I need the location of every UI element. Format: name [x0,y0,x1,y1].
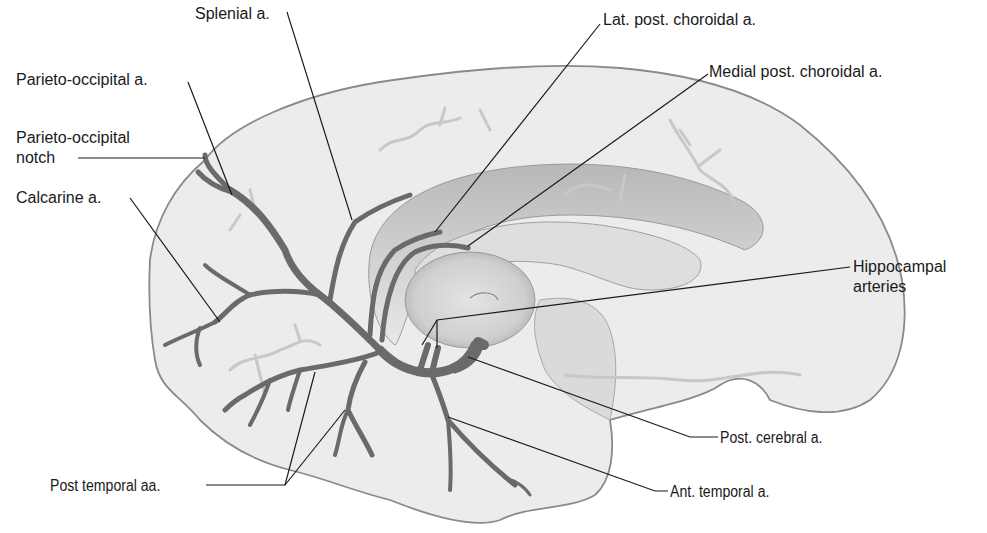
label-calcarine: Calcarine a. [16,188,101,207]
label-parieto-occipital-notch-2: notch [16,148,55,167]
label-hippocampal-1: Hippocampal [853,257,946,276]
label-splenial: Splenial a. [195,4,270,23]
label-post-temporal: Post temporal aa. [50,476,160,495]
label-hippocampal-2: arteries [853,277,906,296]
label-parieto-occipital-notch-1: Parieto-occipital [16,128,130,147]
label-post-cerebral: Post. cerebral a. [720,428,823,447]
label-lat-post-choroidal: Lat. post. choroidal a. [603,10,756,29]
thalamus [405,252,535,348]
label-parieto-occipital-a: Parieto-occipital a. [16,70,148,89]
label-ant-temporal: Ant. temporal a. [670,482,769,501]
label-medial-post-choroidal: Medial post. choroidal a. [709,62,882,81]
